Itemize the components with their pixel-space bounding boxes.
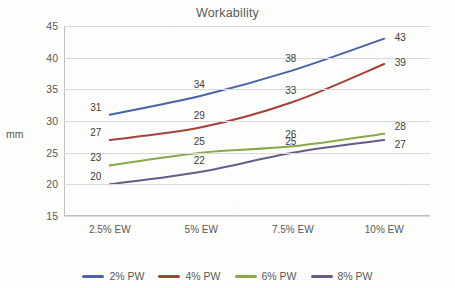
y-tick-label: 20 bbox=[46, 178, 58, 190]
y-axis-label: mm bbox=[6, 128, 24, 140]
y-tick-label: 25 bbox=[46, 147, 58, 159]
data-label: 28 bbox=[395, 120, 406, 131]
data-label: 27 bbox=[90, 127, 101, 138]
legend-swatch bbox=[158, 275, 180, 278]
x-tick-label: 10% EW bbox=[365, 224, 404, 235]
data-label: 33 bbox=[285, 85, 296, 96]
data-label: 34 bbox=[194, 78, 205, 89]
gridline bbox=[64, 26, 430, 27]
data-label: 20 bbox=[90, 171, 101, 182]
y-tick-label: 40 bbox=[46, 52, 58, 64]
data-label: 25 bbox=[285, 135, 296, 146]
y-tick-label: 30 bbox=[46, 115, 58, 127]
legend-label: 8% PW bbox=[338, 270, 373, 282]
legend-label: 6% PW bbox=[262, 270, 297, 282]
data-label: 39 bbox=[395, 57, 406, 68]
series-line bbox=[110, 64, 385, 140]
data-label: 22 bbox=[194, 154, 205, 165]
x-tick-label: 7.5% EW bbox=[272, 224, 314, 235]
gridline bbox=[64, 89, 430, 90]
legend-item[interactable]: 2% PW bbox=[82, 270, 144, 282]
y-tick-label: 45 bbox=[46, 20, 58, 32]
gridline bbox=[64, 121, 430, 122]
gridline bbox=[64, 216, 430, 217]
legend-swatch bbox=[311, 275, 333, 278]
legend-swatch bbox=[82, 275, 104, 278]
data-label: 23 bbox=[90, 152, 101, 163]
legend-label: 2% PW bbox=[109, 270, 144, 282]
legend-label: 4% PW bbox=[185, 270, 220, 282]
x-tick-label: 2.5% EW bbox=[89, 224, 131, 235]
legend-item[interactable]: 8% PW bbox=[311, 270, 373, 282]
chart-legend: 2% PW4% PW6% PW8% PW bbox=[0, 270, 455, 282]
legend-swatch bbox=[235, 275, 257, 278]
y-tick-label: 15 bbox=[46, 210, 58, 222]
chart-title: Workability bbox=[0, 6, 455, 20]
gridline bbox=[64, 153, 430, 154]
series-line bbox=[110, 39, 385, 115]
data-label: 27 bbox=[395, 139, 406, 150]
plot-area: 15202530354045 2.5% EW5% EW7.5% EW10% EW… bbox=[64, 26, 430, 216]
data-label: 29 bbox=[194, 110, 205, 121]
legend-item[interactable]: 6% PW bbox=[235, 270, 297, 282]
x-tick-label: 5% EW bbox=[185, 224, 218, 235]
gridline bbox=[64, 184, 430, 185]
gridline bbox=[64, 58, 430, 59]
y-tick-label: 35 bbox=[46, 83, 58, 95]
series-line bbox=[110, 140, 385, 184]
data-label: 43 bbox=[395, 31, 406, 42]
data-label: 25 bbox=[194, 135, 205, 146]
data-label: 31 bbox=[90, 101, 101, 112]
workability-line-chart: Workability mm 15202530354045 2.5% EW5% … bbox=[0, 0, 455, 288]
data-label: 38 bbox=[285, 53, 296, 64]
legend-item[interactable]: 4% PW bbox=[158, 270, 220, 282]
series-line bbox=[110, 134, 385, 166]
